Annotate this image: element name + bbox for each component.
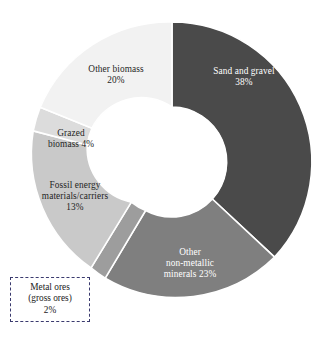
callout-metal-ores-line-1: Metal ores [13, 282, 87, 293]
donut-hole [117, 107, 227, 217]
callout-metal-ores-line-2: (gross ores) [13, 293, 87, 304]
donut-chart: Sand and gravel 38% Other biomass 20% Gr… [0, 0, 336, 338]
callout-metal-ores-line-3: 2% [13, 305, 87, 316]
callout-box-metal-ores: Metal ores (gross ores) 2% [10, 277, 90, 322]
